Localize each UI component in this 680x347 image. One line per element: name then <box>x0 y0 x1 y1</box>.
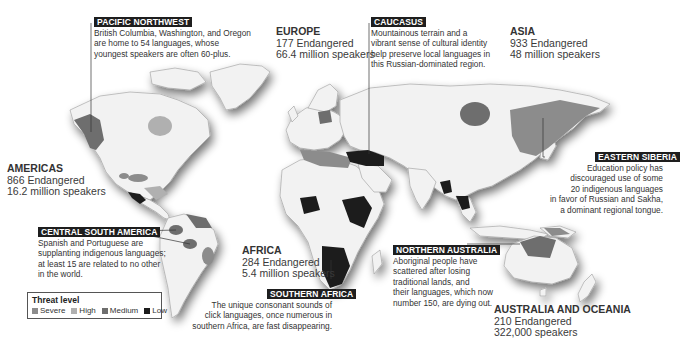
legend-label: High <box>79 306 95 316</box>
arctic-islands <box>150 68 206 90</box>
zone-central-siberia <box>460 102 490 126</box>
callout-title-central-south-america: CENTRAL SOUTH AMERICA <box>38 227 160 237</box>
callout-line: Spanish and Portuguese are <box>38 238 166 248</box>
zone-brazil <box>202 247 214 265</box>
callout-line: a dominant regional tongue. <box>550 205 663 215</box>
speaker-count: 16.2 million speakers <box>7 186 106 198</box>
region-name: AMERICAS <box>7 163 106 175</box>
callout-line: vibrant sense of cultural identity <box>371 38 490 48</box>
region-americas: AMERICAS 866 Endangered 16.2 million spe… <box>7 163 106 198</box>
swatch-high-icon <box>71 308 77 314</box>
swatch-low-icon <box>144 308 150 314</box>
legend-item-high: High <box>71 306 95 316</box>
speaker-count: 48 million speakers <box>510 49 600 61</box>
greenland <box>210 64 270 110</box>
tasmania <box>540 288 546 296</box>
region-name: AFRICA <box>242 245 335 257</box>
callout-line: 20 indigenous languages <box>550 184 663 194</box>
callout-line: Education policy has <box>550 163 663 173</box>
callout-text-southern-africa: The unique consonant sounds of click lan… <box>192 300 332 331</box>
madagascar <box>372 250 382 274</box>
speaker-count: 322,000 speakers <box>494 327 631 339</box>
region-oceania: AUSTRALIA AND OCEANIA 210 Endangered 322… <box>494 304 631 339</box>
callout-line: discouraged use of some <box>550 173 663 183</box>
callout-line: their languages, which now <box>393 287 493 297</box>
callout-line: are home to 54 languages, whose <box>94 38 251 48</box>
region-name: ASIA <box>510 26 600 38</box>
zone-hudson <box>148 116 172 136</box>
threat-level-legend: Threat level Severe High Medium Low <box>27 292 162 319</box>
callout-line: scattered after losing <box>393 266 493 276</box>
region-europe: EUROPE 177 Endangered 66.4 million speak… <box>276 26 375 61</box>
callout-line: The unique consonant sounds of <box>192 300 332 310</box>
callout-title-caucasus: CAUCASUS <box>371 17 426 27</box>
callout-line: at least 15 are related to no other <box>38 259 166 269</box>
legend-label: Severe <box>40 306 65 316</box>
callout-line: supplanting indigenous languages; <box>38 248 166 258</box>
new-zealand <box>578 274 596 302</box>
callout-line: British Columbia, Washington, and Oregon <box>94 28 251 38</box>
callout-text-caucasus: Mountainous terrain and a vibrant sense … <box>371 28 490 70</box>
callout-line: southern Africa, are fast disappearing. <box>192 321 332 331</box>
callout-line: help preserve local languages in <box>371 49 490 59</box>
legend-label: Medium <box>110 306 138 316</box>
speaker-count: 66.4 million speakers <box>276 49 375 61</box>
callout-line: click languages, once numerous in <box>192 310 332 320</box>
callout-line: this Russian-dominated region. <box>371 59 490 69</box>
callout-line: in the world. <box>38 269 166 279</box>
callout-line: traditional lands, and <box>393 277 493 287</box>
zone-baltic <box>318 110 332 124</box>
callout-text-pacific-northwest: British Columbia, Washington, and Oregon… <box>94 28 251 59</box>
legend-item-severe: Severe <box>32 306 65 316</box>
callout-line: Mountainous terrain and a <box>371 28 490 38</box>
swatch-medium-icon <box>102 308 108 314</box>
zone-us-sw <box>119 173 129 179</box>
callout-title-pacific-northwest: PACIFIC NORTHWEST <box>94 17 192 27</box>
zone-us-s <box>128 174 148 182</box>
region-africa: AFRICA 284 Endangered 5.4 million speake… <box>242 245 335 280</box>
legend-title: Threat level <box>32 295 157 305</box>
callout-title-southern-africa: SOUTHERN AFRICA <box>267 289 356 299</box>
callout-line: Aboriginal people have <box>393 256 493 266</box>
legend-item-low: Low <box>144 306 167 316</box>
callout-title-northern-australia: NORTHERN AUSTRALIA <box>393 245 500 255</box>
callout-title-eastern-siberia: EASTERN SIBERIA <box>595 152 680 162</box>
legend-label: Low <box>152 306 167 316</box>
callout-line: in favor of Russian and Sakha, <box>550 194 663 204</box>
region-asia: ASIA 933 Endangered 48 million speakers <box>510 26 600 61</box>
callout-line: number 150, are dying out. <box>393 298 493 308</box>
callout-text-central-south-america: Spanish and Portuguese are supplanting i… <box>38 238 166 280</box>
legend-item-medium: Medium <box>102 306 138 316</box>
region-name: AUSTRALIA AND OCEANIA <box>494 304 631 316</box>
callout-line: youngest speakers are often 60-plus. <box>94 49 251 59</box>
speaker-count: 5.4 million speakers <box>242 268 335 280</box>
swatch-severe-icon <box>32 308 38 314</box>
callout-text-eastern-siberia: Education policy has discouraged use of … <box>550 163 663 215</box>
callout-text-northern-australia: Aboriginal people have scattered after l… <box>393 256 493 308</box>
region-name: EUROPE <box>276 26 375 38</box>
scandinavia <box>308 84 338 112</box>
